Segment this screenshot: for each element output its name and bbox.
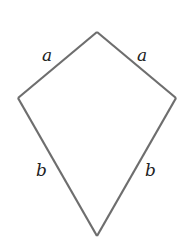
kite-diagram: a a b b — [0, 0, 190, 246]
edge-bottom-right — [97, 98, 176, 236]
label-side-b-right: b — [145, 160, 156, 180]
edge-bottom-left — [18, 98, 97, 236]
edge-top-right — [97, 32, 176, 98]
edge-top-left — [18, 32, 97, 98]
label-side-b-left: b — [36, 160, 47, 180]
label-side-a-left: a — [42, 45, 52, 65]
label-side-a-right: a — [137, 45, 147, 65]
